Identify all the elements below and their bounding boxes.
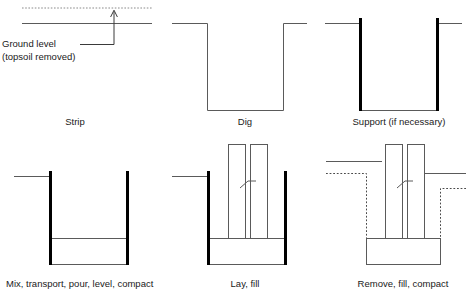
ground-level-label-line1: Ground level — [2, 38, 56, 49]
former-trench-outline-dotted-right — [441, 189, 467, 265]
precast-wall-panel-right — [408, 145, 425, 239]
precast-wall-panel-left — [229, 145, 246, 239]
panel-support: Support (if necessary) — [325, 18, 462, 127]
panel-label-support: Support (if necessary) — [353, 116, 446, 127]
former-trench-outline-dotted-left — [326, 174, 367, 265]
concrete-base-block — [367, 239, 441, 265]
panel-mix-pour: Mix, transport, pour, level, compact — [6, 171, 154, 289]
precast-wall-panel-right — [251, 145, 268, 239]
panel-lay-fill: Lay, fill — [172, 145, 286, 290]
ground-level-label-line2: (topsoil removed) — [2, 51, 75, 62]
diagram-canvas: Ground level (topsoil removed) Strip Dig… — [0, 0, 469, 297]
construction-sequence-diagram: Ground level (topsoil removed) Strip Dig… — [0, 0, 469, 297]
panel-remove-fill: Remove, fill, compact — [326, 145, 466, 290]
panel-dig: Dig — [172, 24, 307, 128]
leader-line — [80, 12, 114, 45]
panel-label-dig: Dig — [238, 116, 252, 127]
open-trench-outline — [208, 24, 284, 111]
panel-label-lay-fill: Lay, fill — [231, 278, 260, 289]
panel-label-remove-fill: Remove, fill, compact — [358, 278, 449, 289]
precast-wall-panel-left — [386, 145, 403, 239]
panel-strip: Ground level (topsoil removed) Strip — [2, 8, 152, 127]
panel-label-mix-pour: Mix, transport, pour, level, compact — [6, 278, 154, 289]
panel-label-strip: Strip — [65, 116, 85, 127]
